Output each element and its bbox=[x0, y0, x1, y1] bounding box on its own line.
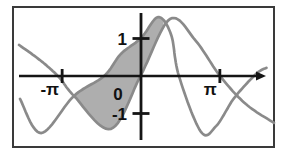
origin-label: 0 bbox=[113, 85, 122, 104]
x-tick-label-neg-pi: -π bbox=[40, 80, 59, 99]
figure: -π π 1 -1 0 bbox=[0, 0, 282, 155]
y-tick-label-neg-1: -1 bbox=[112, 105, 127, 124]
figure-canvas: -π π 1 -1 0 bbox=[0, 0, 282, 155]
y-tick-label-1: 1 bbox=[118, 30, 127, 49]
x-tick-label-pi: π bbox=[204, 80, 217, 99]
